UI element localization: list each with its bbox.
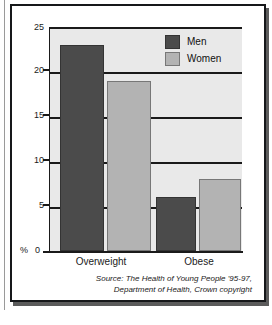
source-note-line-2: Department of Health, Crown copyright bbox=[52, 285, 252, 296]
women-swatch-icon bbox=[165, 52, 180, 66]
y-tick-label-25: 25 bbox=[34, 23, 44, 32]
y-tick-mark-10 bbox=[43, 159, 49, 161]
x-category-label-overweight: Overweight bbox=[50, 256, 152, 267]
source-note: Source: The Health of Young People '95-9… bbox=[52, 274, 252, 295]
y-tick-mark-20 bbox=[43, 69, 49, 71]
y-tick-mark-5 bbox=[43, 204, 49, 206]
bar-overweight-men[interactable] bbox=[60, 45, 104, 251]
bar-obese-women[interactable] bbox=[199, 179, 241, 251]
chart-figure: 25 20 15 10 5 % 0 Overweight Obese bbox=[0, 0, 272, 325]
page-margin-rule bbox=[4, 0, 5, 310]
chart-area: 25 20 15 10 5 % 0 Overweight Obese bbox=[12, 6, 264, 300]
y-axis-unit-label: % bbox=[20, 246, 28, 255]
bar-obese-men[interactable] bbox=[156, 197, 196, 251]
x-category-label-obese: Obese bbox=[157, 256, 241, 267]
y-tick-mark-15 bbox=[43, 114, 49, 116]
legend-item-women[interactable]: Women bbox=[165, 50, 234, 67]
bar-overweight-women[interactable] bbox=[107, 81, 151, 251]
legend: Men Women bbox=[160, 29, 238, 71]
source-note-line-1: Source: The Health of Young People '95-9… bbox=[52, 274, 252, 285]
legend-label-women: Women bbox=[187, 53, 221, 64]
figure-frame: 25 20 15 10 5 % 0 Overweight Obese bbox=[10, 4, 266, 302]
men-swatch-icon bbox=[165, 35, 180, 49]
x-axis-line bbox=[43, 251, 243, 253]
legend-label-men: Men bbox=[187, 36, 206, 47]
y-tick-label-0: 0 bbox=[35, 246, 40, 255]
y-axis-ticks: 25 20 15 10 5 bbox=[18, 27, 44, 251]
legend-item-men[interactable]: Men bbox=[165, 33, 234, 50]
